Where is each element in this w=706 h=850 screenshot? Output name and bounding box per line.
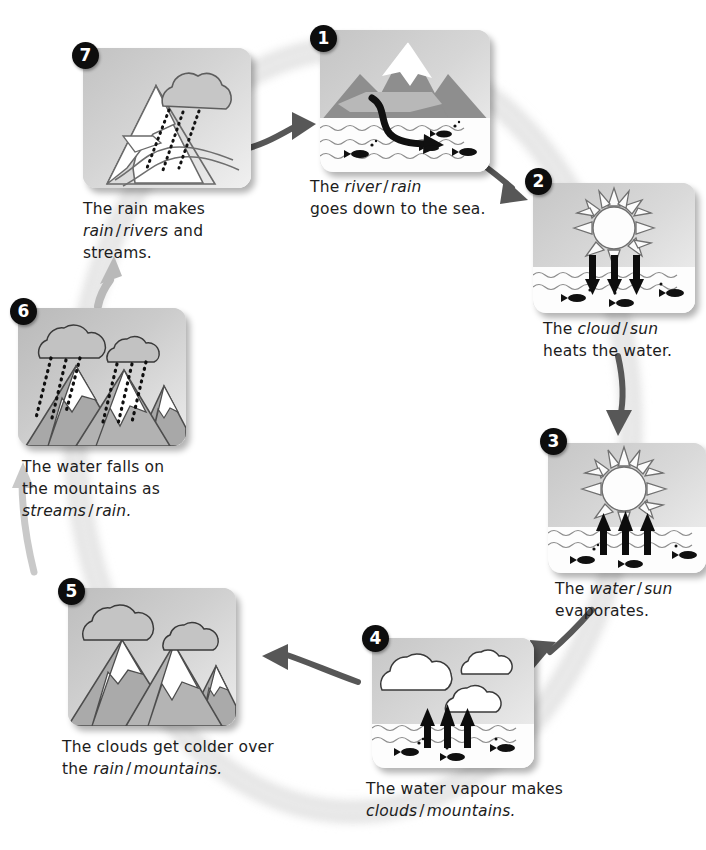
- text-run: The: [543, 320, 578, 338]
- text-run: the: [62, 760, 93, 778]
- step-1-caption-line-2: goes down to the sea.: [310, 198, 486, 220]
- step-7-badge: 7: [72, 42, 99, 69]
- text-run: heats the water.: [543, 342, 672, 360]
- choice-a: streams: [22, 502, 86, 520]
- slash: /: [381, 178, 390, 196]
- step-2-caption-line-2: heats the water.: [543, 340, 672, 362]
- text-run: The water vapour makes: [366, 780, 563, 798]
- step-6-panel: [18, 308, 186, 446]
- step-4-caption-line-1: The water vapour makes: [366, 778, 563, 800]
- text-run: the mountains as: [22, 480, 160, 498]
- step-3-badge: 3: [540, 428, 567, 455]
- slash: /: [86, 502, 95, 520]
- step-5-caption: The clouds get colder over the rain/moun…: [62, 736, 274, 780]
- step-3-panel: [548, 443, 706, 573]
- step-4-caption-line-2: clouds/mountains.: [366, 800, 563, 822]
- step-6-caption: The water falls on the mountains as stre…: [22, 456, 164, 522]
- scene-rain-on-mountains: [18, 308, 186, 446]
- choice-a: cloud: [578, 320, 621, 338]
- step-7-caption-line-1: The rain makes: [83, 198, 205, 220]
- scene-sun-heats-water: [533, 183, 695, 313]
- step-1-caption: The river/rain goes down to the sea.: [310, 176, 486, 220]
- text-run: The rain makes: [83, 200, 205, 218]
- choice-b: sun: [644, 580, 672, 598]
- arrow-4-to-5: [262, 644, 358, 682]
- slash: /: [635, 580, 644, 598]
- step-7-caption-line-2: rain/rivers and: [83, 220, 205, 242]
- slash: /: [417, 802, 426, 820]
- step-1-panel: [320, 30, 490, 172]
- water-cycle-diagram: 7 The rain makes rain/rivers and streams…: [0, 0, 706, 850]
- text-run: and: [168, 222, 203, 240]
- text-run: streams.: [83, 244, 152, 262]
- text-run: The clouds get colder over: [62, 738, 274, 756]
- choice-b: rivers: [123, 222, 168, 240]
- step-1-badge: 1: [310, 25, 337, 52]
- text-run: The: [310, 178, 345, 196]
- text-run: goes down to the sea.: [310, 200, 486, 218]
- choice-a: river: [345, 178, 382, 196]
- step-2-panel: [533, 183, 695, 313]
- step-6-caption-line-1: The water falls on: [22, 456, 164, 478]
- step-5-caption-line-1: The clouds get colder over: [62, 736, 274, 758]
- step-7-panel: [83, 48, 251, 188]
- choice-b: rain.: [96, 502, 132, 520]
- slash: /: [114, 222, 123, 240]
- text-run: The water falls on: [22, 458, 164, 476]
- text-run: The: [555, 580, 590, 598]
- step-2-caption: The cloud/sun heats the water.: [543, 318, 672, 362]
- step-5-badge: 5: [58, 578, 85, 605]
- text-run: evaporates.: [555, 602, 649, 620]
- step-1-caption-line-1: The river/rain: [310, 176, 486, 198]
- step-2-badge: 2: [525, 168, 552, 195]
- scene-vapour-makes-clouds: [372, 638, 534, 768]
- choice-b: mountains.: [427, 802, 516, 820]
- step-6-badge: 6: [10, 298, 37, 325]
- step-4-caption: The water vapour makes clouds/mountains.: [366, 778, 563, 822]
- step-3-caption-line-2: evaporates.: [555, 600, 673, 622]
- step-6-caption-line-3: streams/rain.: [22, 500, 164, 522]
- step-5-caption-line-2: the rain/mountains.: [62, 758, 274, 780]
- step-7-caption: The rain makes rain/rivers and streams.: [83, 198, 205, 264]
- slash: /: [124, 760, 133, 778]
- scene-clouds-over-mountains: [68, 588, 236, 726]
- scene-river-to-sea: [320, 30, 490, 172]
- step-2-caption-line-1: The cloud/sun: [543, 318, 672, 340]
- step-7-caption-line-3: streams.: [83, 242, 205, 264]
- slash: /: [621, 320, 630, 338]
- choice-b: mountains.: [133, 760, 222, 778]
- step-3-caption-line-1: The water/sun: [555, 578, 673, 600]
- choice-a: clouds: [366, 802, 417, 820]
- step-3-caption: The water/sun evaporates.: [555, 578, 673, 622]
- choice-a: rain: [83, 222, 114, 240]
- scene-water-evaporates: [548, 443, 706, 573]
- choice-b: sun: [630, 320, 658, 338]
- step-6-caption-line-2: the mountains as: [22, 478, 164, 500]
- step-4-panel: [372, 638, 534, 768]
- scene-rain-makes-rivers: [83, 48, 251, 188]
- choice-b: rain: [391, 178, 422, 196]
- arrow-2-to-3: [606, 356, 632, 436]
- step-4-badge: 4: [362, 625, 389, 652]
- step-5-panel: [68, 588, 236, 726]
- choice-a: rain: [93, 760, 124, 778]
- choice-a: water: [590, 580, 635, 598]
